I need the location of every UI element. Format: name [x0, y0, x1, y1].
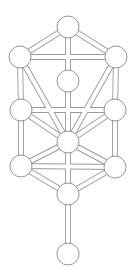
node-n7 — [57, 131, 79, 153]
node-n9 — [104, 156, 126, 178]
node-n8 — [10, 155, 32, 177]
node-n6 — [104, 99, 126, 121]
node-n1 — [57, 16, 79, 38]
node-n10 — [57, 183, 79, 205]
node-n11 — [57, 243, 79, 265]
tree-of-life-diagram — [0, 0, 135, 277]
node-n3 — [9, 46, 31, 68]
node-n4 — [57, 70, 79, 92]
node-n5 — [10, 99, 32, 121]
node-n2 — [105, 46, 127, 68]
path-n8-n9 — [21, 166, 115, 167]
